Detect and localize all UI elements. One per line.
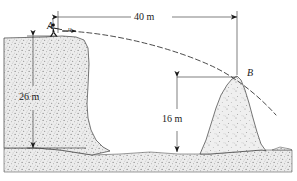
physics-diagram: 40 m 26 m 16 m A B u <box>0 0 297 181</box>
right-hill <box>200 76 266 154</box>
dimension-label-26m: 26 m <box>19 92 39 102</box>
valley-floor-soil <box>4 148 292 172</box>
point-label-a: A <box>47 21 53 31</box>
terrain-group <box>4 36 292 172</box>
dimension-label-16m: 16 m <box>162 114 182 124</box>
dimension-label-40m: 40 m <box>134 12 154 22</box>
diagram-canvas <box>0 0 297 181</box>
point-label-b: B <box>247 68 253 78</box>
velocity-label-u: u <box>68 26 72 33</box>
right-edge-mound <box>272 147 292 150</box>
